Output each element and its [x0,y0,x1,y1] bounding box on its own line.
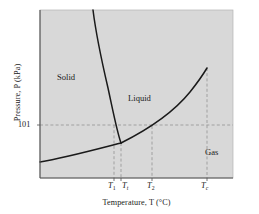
region-label-gas: Gas [205,147,218,157]
x-axis-title: Temperature, T (°C) [40,198,233,207]
x-tick-base-tt: T [122,181,127,190]
x-tick-sub-tt: t [127,185,129,191]
phase-diagram-figure: Pressure, P (kPa) 101 Temperature, T (°C… [0,0,259,214]
x-tick-base-t1: T [108,181,113,190]
x-tick-label-t1: T1 [108,181,116,190]
x-tick-label-t2: T2 [147,181,155,190]
x-tick-base-tc: T [201,181,206,190]
x-tick-sub-t2: 2 [152,185,155,191]
x-tick-label-tc: Tc [201,181,208,190]
phase-diagram-plot [0,0,259,214]
y-tick-label-101: 101 [18,120,30,129]
region-label-liquid: Liquid [128,93,151,103]
x-tick-sub-tc: c [206,185,209,191]
x-tick-base-t2: T [147,181,152,190]
region-label-solid: Solid [57,72,75,82]
x-tick-sub-t1: 1 [113,185,116,191]
x-tick-label-tt: Tt [122,181,128,190]
